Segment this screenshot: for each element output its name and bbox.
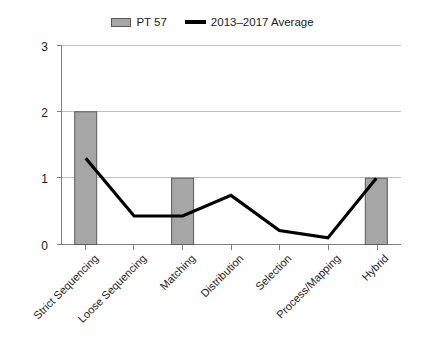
plot-area: 0 1 2 3 Strict SequencingLoose Sequencin… (0, 0, 425, 349)
axis-lines (62, 46, 401, 245)
y-axis-ticks (57, 46, 62, 245)
y-tick-label-3: 3 (20, 41, 48, 53)
x-axis-ticks (86, 245, 378, 250)
gridlines (62, 46, 401, 178)
line-series-average (86, 158, 377, 238)
chart-container: PT 57 2013–2017 Average (0, 0, 425, 349)
bar-strict-sequencing (75, 112, 97, 245)
y-tick-label-2: 2 (20, 107, 48, 119)
y-tick-label-0: 0 (20, 240, 48, 252)
y-tick-label-1: 1 (20, 173, 48, 185)
